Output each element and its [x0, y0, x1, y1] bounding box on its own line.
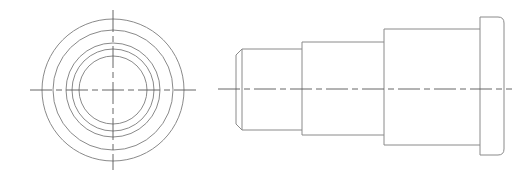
- end-view: [30, 10, 196, 170]
- flange-outline: [480, 17, 504, 155]
- middle-shaft-outline: [302, 42, 384, 135]
- side-view: [218, 17, 512, 155]
- technical-drawing: [0, 0, 532, 172]
- chamfered-tip-outline: [236, 49, 242, 130]
- large-shaft-outline: [384, 29, 480, 145]
- small-shaft-outline: [242, 49, 302, 130]
